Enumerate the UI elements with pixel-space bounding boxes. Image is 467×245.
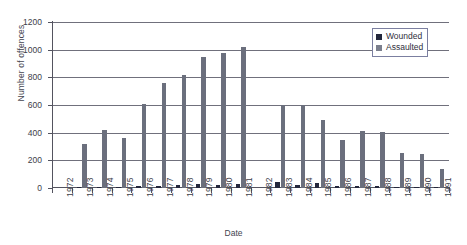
y-tick-label: 800 (28, 72, 42, 82)
y-tick-label: 600 (28, 100, 42, 110)
y-tick-label: 400 (28, 128, 42, 138)
x-tick-label: 1989 (403, 177, 413, 197)
x-tick-label: 1988 (383, 177, 393, 197)
bar-assaulted (201, 57, 205, 188)
bar-group (72, 22, 92, 188)
x-axis-ticks: 1972197319741975197619771978197919801981… (52, 188, 450, 193)
x-tick-label: 1981 (244, 177, 254, 197)
y-tick-label: 1200 (23, 17, 42, 27)
bar-group (350, 22, 370, 188)
x-tick-label: 1974 (105, 177, 115, 197)
chart-legend: Wounded Assaulted (372, 28, 428, 57)
bar-assaulted (142, 104, 146, 188)
x-tick-label: 1990 (423, 177, 433, 197)
bar-group (191, 22, 211, 188)
bar-group (290, 22, 310, 188)
legend-item-wounded: Wounded (376, 31, 423, 42)
x-tick-label: 1978 (185, 177, 195, 197)
bar-assaulted (281, 105, 285, 188)
y-tick-label: 1000 (23, 45, 42, 55)
bar-group (270, 22, 290, 188)
y-tick-label: 0 (37, 183, 42, 193)
x-tick-label: 1984 (304, 177, 314, 197)
bar-group (131, 22, 151, 188)
bar-group (52, 22, 72, 188)
x-tick-label: 1982 (264, 177, 274, 197)
x-tick-label: 1977 (165, 177, 175, 197)
bar-group (211, 22, 231, 188)
x-tick-label: 1991 (443, 177, 453, 197)
x-tick-label: 1983 (284, 177, 294, 197)
bar-group (151, 22, 171, 188)
x-tick-label: 1979 (204, 177, 214, 197)
x-tick-label: 1972 (65, 177, 75, 197)
bar-group (251, 22, 271, 188)
x-axis-title: Date (0, 228, 467, 238)
x-tick-mark (52, 188, 53, 193)
x-tick-label: 1973 (85, 177, 95, 197)
bar-assaulted (301, 105, 305, 188)
x-tick-label: 1980 (224, 177, 234, 197)
bar-group (310, 22, 330, 188)
legend-label: Wounded (386, 31, 422, 42)
bar-group (92, 22, 112, 188)
legend-label: Assaulted (386, 42, 423, 53)
legend-swatch-icon (376, 34, 382, 40)
x-tick-label: 1987 (363, 177, 373, 197)
y-tick-label: 200 (28, 155, 42, 165)
bar-chart: Number of offences 020040060080010001200… (0, 0, 467, 245)
legend-item-assaulted: Assaulted (376, 42, 423, 53)
bar-assaulted (241, 47, 245, 188)
x-tick-label: 1976 (145, 177, 155, 197)
bar-group (429, 22, 449, 188)
legend-swatch-icon (376, 45, 382, 51)
bar-group (112, 22, 132, 188)
bar-assaulted (221, 53, 225, 188)
bar-group (231, 22, 251, 188)
bar-assaulted (162, 83, 166, 188)
bar-assaulted (182, 75, 186, 188)
x-tick-label: 1985 (323, 177, 333, 197)
bar-group (330, 22, 350, 188)
bar-group (171, 22, 191, 188)
x-tick-label: 1986 (343, 177, 353, 197)
x-tick-label: 1975 (125, 177, 135, 197)
